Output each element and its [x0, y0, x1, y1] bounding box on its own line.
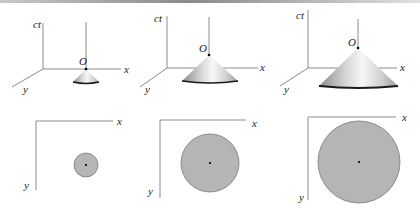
x-label: x: [399, 61, 405, 73]
y-label: y: [283, 83, 289, 95]
x-label: x: [251, 117, 257, 129]
spacetime-panel-3: ct O x y: [280, 9, 405, 95]
x-label: x: [123, 63, 129, 75]
y-label: y: [147, 185, 153, 197]
cross-section-panel-1: x y: [23, 115, 122, 191]
cross-section-panel-2: x y: [147, 117, 257, 198]
light-cone: [73, 69, 99, 84]
light-cone-diagram: ct O x y ct O x y ct O x y x: [0, 0, 420, 208]
center-dot: [85, 164, 87, 166]
origin-label: O: [79, 55, 87, 67]
light-cone: [182, 55, 238, 83]
ct-label: ct: [154, 12, 163, 24]
spacetime-panel-2: ct O x y: [140, 12, 265, 95]
origin-label: O: [199, 42, 207, 54]
y-label: y: [22, 83, 28, 95]
origin-dot: [208, 54, 211, 57]
x-label: x: [116, 115, 122, 127]
y-label: y: [144, 83, 150, 95]
cross-section-panel-3: x y: [298, 111, 407, 203]
y-label: y: [23, 179, 29, 191]
center-dot: [209, 162, 211, 164]
x-label: x: [401, 111, 407, 123]
ct-label: ct: [33, 18, 42, 30]
ct-label: ct: [296, 9, 305, 21]
spacetime-panel-1: ct O x y: [12, 18, 129, 95]
origin-dot: [357, 47, 360, 50]
origin-dot: [85, 68, 88, 71]
origin-label: O: [348, 36, 356, 48]
x-label: x: [259, 61, 265, 73]
y-label: y: [298, 191, 304, 203]
center-dot: [358, 161, 360, 163]
